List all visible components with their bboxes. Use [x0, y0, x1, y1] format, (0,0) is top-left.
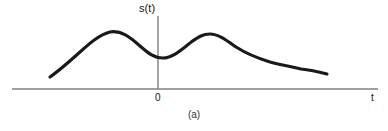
x-axis-label: t	[371, 93, 374, 103]
figure-caption: (a)	[0, 110, 388, 120]
y-axis-label: s(t)	[139, 3, 155, 14]
signal-waveform-curve	[50, 32, 327, 77]
origin-label: 0	[155, 93, 161, 103]
signal-figure: s(t) 0 t (a)	[0, 0, 388, 131]
